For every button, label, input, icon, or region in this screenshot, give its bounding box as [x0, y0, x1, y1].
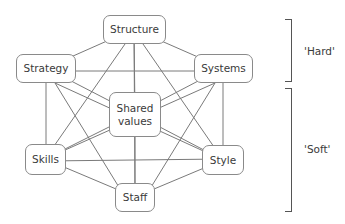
node-shared-values-line1: Shared	[117, 102, 154, 115]
node-structure: Structure	[103, 15, 166, 44]
node-strategy: Strategy	[16, 54, 76, 83]
node-strategy-label: Strategy	[24, 62, 69, 75]
node-staff: Staff	[115, 183, 155, 212]
hard-bracket	[285, 19, 292, 82]
node-systems-label: Systems	[201, 62, 246, 75]
node-structure-label: Structure	[110, 23, 159, 36]
node-style-label: Style	[210, 154, 236, 167]
node-staff-label: Staff	[123, 191, 147, 204]
node-skills-label: Skills	[32, 153, 59, 166]
node-systems: Systems	[194, 54, 253, 83]
soft-label: 'Soft'	[304, 143, 331, 155]
node-skills: Skills	[25, 144, 66, 175]
soft-bracket	[285, 88, 292, 212]
node-style: Style	[202, 145, 244, 175]
node-shared-values: Shared values	[109, 92, 161, 137]
connector-lines	[0, 0, 345, 224]
node-shared-values-line2: values	[118, 115, 152, 128]
hard-label: 'Hard'	[304, 45, 335, 57]
